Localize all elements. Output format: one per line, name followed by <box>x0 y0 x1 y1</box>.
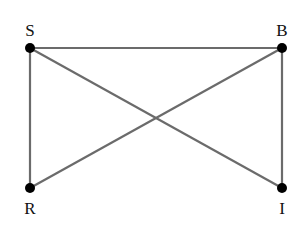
node-s <box>25 43 35 53</box>
label-i: I <box>279 199 285 218</box>
label-s: S <box>25 21 34 40</box>
node-i <box>277 183 287 193</box>
edges <box>30 48 282 188</box>
label-r: R <box>24 199 36 218</box>
labels: S B R I <box>24 21 287 218</box>
graph-diagram: S B R I <box>0 0 302 228</box>
label-b: B <box>276 21 287 40</box>
node-b <box>277 43 287 53</box>
node-r <box>25 183 35 193</box>
